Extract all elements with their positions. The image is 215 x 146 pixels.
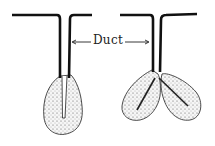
compound-gland bbox=[120, 14, 201, 120]
simple-gland bbox=[12, 15, 92, 134]
compound-gland-right-lobe bbox=[161, 74, 201, 121]
diagram-canvas: Duct bbox=[0, 0, 215, 146]
simple-gland-duct-right bbox=[69, 15, 92, 78]
gland-diagram bbox=[0, 0, 215, 146]
duct-label: Duct bbox=[91, 33, 125, 47]
simple-gland-duct-left bbox=[12, 15, 60, 78]
compound-gland-left-lobe bbox=[122, 70, 160, 120]
compound-gland-duct-right bbox=[160, 14, 197, 72]
